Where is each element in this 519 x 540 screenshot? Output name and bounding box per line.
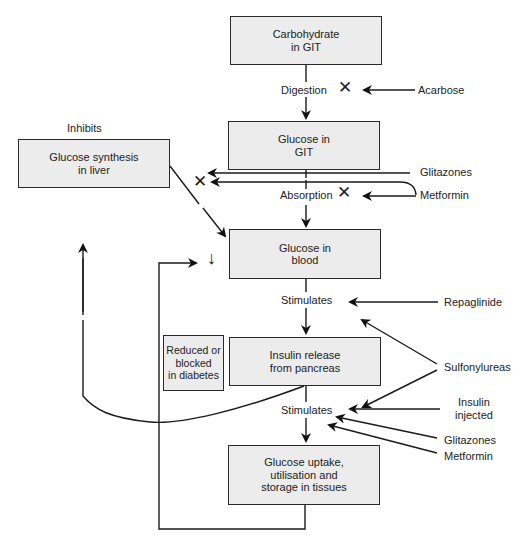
box-glucose-in-blood: Glucose in blood xyxy=(229,229,381,279)
label-inhibits: Inhibits xyxy=(67,122,102,135)
box-insulin-release: Insulin release from pancreas xyxy=(229,337,381,386)
box-reduced-blocked-diabetes: Reduced or blocked in diabetes xyxy=(163,335,224,391)
box-carbohydrate-in-git-text: Carbohydrate in GIT xyxy=(273,28,340,53)
drug-insulin-injected-text: Insulin injected xyxy=(455,396,493,421)
box-glucose-in-git-text: Glucose in GIT xyxy=(278,133,330,158)
drug-repaglinide: Repaglinide xyxy=(444,296,502,309)
box-insulin-release-text: Insulin release from pancreas xyxy=(270,349,341,374)
decrease-arrow-icon: ↓ xyxy=(207,252,216,265)
box-glucose-in-git: Glucose in GIT xyxy=(228,121,380,170)
box-glucose-uptake: Glucose uptake, utilisation and storage … xyxy=(228,445,380,505)
drug-glitazones-bottom: Glitazones xyxy=(444,434,496,447)
label-stimulates-uptake: Stimulates xyxy=(281,404,332,417)
box-glucose-synthesis-liver-text: Glucose synthesis in liver xyxy=(49,151,138,176)
drug-acarbose: Acarbose xyxy=(418,84,464,97)
box-glucose-synthesis-liver: Glucose synthesis in liver xyxy=(18,139,170,188)
label-absorption: Absorption xyxy=(280,189,333,202)
block-mark-liver-icon: ✕ xyxy=(193,176,207,189)
drug-metformin-top: Metformin xyxy=(420,189,469,202)
label-digestion: Digestion xyxy=(281,84,327,97)
box-glucose-in-blood-text: Glucose in blood xyxy=(279,242,331,267)
box-glucose-uptake-text: Glucose uptake, utilisation and storage … xyxy=(261,456,347,494)
label-stimulates-insulin: Stimulates xyxy=(281,294,332,307)
drug-glitazones-top: Glitazones xyxy=(420,166,472,179)
box-reduced-blocked-diabetes-text: Reduced or blocked in diabetes xyxy=(166,344,220,382)
box-carbohydrate-in-git: Carbohydrate in GIT xyxy=(230,16,382,65)
block-mark-absorption-icon: ✕ xyxy=(337,187,351,200)
drug-metformin-bottom: Metformin xyxy=(444,450,493,463)
drug-sulfonylureas: Sulfonylureas xyxy=(444,361,511,374)
block-mark-digestion-icon: ✕ xyxy=(338,82,352,95)
drug-insulin-injected: Insulin injected xyxy=(455,396,493,421)
